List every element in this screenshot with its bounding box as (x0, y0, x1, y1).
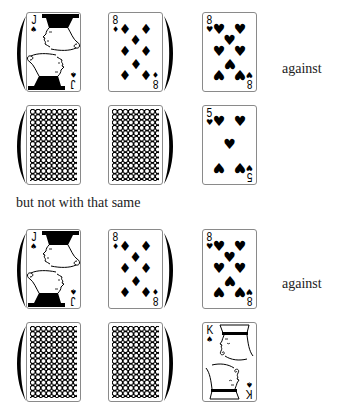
card-8-of-diamonds: 8♦8♦♦♦♦♦♦♦♦♦ (108, 12, 163, 92)
against-label: against (282, 61, 322, 77)
diamonds-pip-icon: ♦ (118, 68, 132, 82)
card-rank: 5 (247, 171, 252, 183)
card-8-of-diamonds: 8♦8♦♦♦♦♦♦♦♦♦ (108, 229, 163, 309)
caption-text: but not with that same (16, 195, 140, 211)
right-parenthesis-icon (163, 108, 177, 185)
hand-row-4: K♠K♠ (0, 322, 345, 402)
face-down-card (26, 105, 81, 185)
hand-row-1: J♠J♠ 8♦8♦♦♦♦♦♦♦♦♦ 8♥8♥♥♥♥♥♥♥♥♥ (0, 12, 345, 92)
card-rank: 8 (153, 78, 158, 90)
card-back-pattern (112, 326, 159, 398)
left-parenthesis-icon (13, 15, 27, 92)
face-down-card (108, 322, 163, 402)
right-parenthesis-icon (163, 232, 177, 309)
left-parenthesis-icon (13, 108, 27, 185)
card-j-of-spades: J♠J♠ (26, 12, 81, 92)
jack-portrait-icon (27, 13, 80, 91)
hearts-pip-icon: ♥ (223, 137, 237, 151)
card-8-of-hearts: 8♥8♥♥♥♥♥♥♥♥♥ (202, 229, 257, 309)
left-parenthesis-icon (13, 325, 27, 402)
hearts-pip-icon: ♥ (233, 285, 247, 299)
diamonds-pip-icon: ♦ (139, 68, 153, 82)
card-back-pattern (30, 109, 77, 181)
card-j-of-spades: J♠J♠ (26, 229, 81, 309)
diamonds-pip-icon: ♦ (139, 285, 153, 299)
king-portrait-icon (203, 323, 256, 401)
hearts-pip-icon: ♥ (233, 114, 247, 128)
hearts-pip-icon: ♥ (233, 68, 247, 82)
card-back-pattern (112, 109, 159, 181)
diamonds-pip-icon: ♦ (118, 285, 132, 299)
card-8-of-hearts: 8♥8♥♥♥♥♥♥♥♥♥ (202, 12, 257, 92)
hearts-pip-icon: ♥ (212, 285, 226, 299)
card-k-of-spades: K♠K♠ (202, 322, 257, 402)
card-5-of-hearts: 5♥5♥♥♥♥♥♥ (202, 105, 257, 185)
hearts-pip-icon: ♥ (212, 114, 226, 128)
hand-row-2: 5♥5♥♥♥♥♥♥ (0, 105, 345, 185)
face-down-card (26, 322, 81, 402)
right-parenthesis-icon (163, 15, 177, 92)
card-rank: 8 (247, 78, 252, 90)
hearts-pip-icon: ♥ (212, 161, 226, 175)
card-back-pattern (30, 326, 77, 398)
against-label: against (282, 276, 322, 292)
hearts-pip-icon: ♥ (212, 68, 226, 82)
card-rank: 8 (153, 295, 158, 307)
face-down-card (108, 105, 163, 185)
hearts-pip-icon: ♥ (233, 161, 247, 175)
page: J♠J♠ 8♦8♦♦♦♦♦♦♦♦♦ 8♥8♥♥♥♥♥♥♥♥♥ against 5… (0, 0, 345, 419)
right-parenthesis-icon (163, 325, 177, 402)
card-rank: 8 (247, 295, 252, 307)
hand-row-3: J♠J♠ 8♦8♦♦♦♦♦♦♦♦♦ 8♥8♥♥♥♥♥♥♥♥♥ (0, 229, 345, 309)
jack-portrait-icon (27, 230, 80, 308)
left-parenthesis-icon (13, 232, 27, 309)
